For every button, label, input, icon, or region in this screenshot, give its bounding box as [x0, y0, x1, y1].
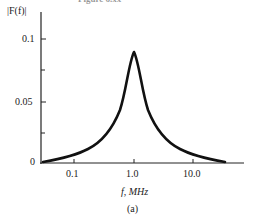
x-tick-label: 10.0	[183, 168, 201, 179]
x-tick-label: 1.0	[126, 168, 139, 179]
x-tick-label: 0.1	[66, 168, 79, 179]
y-axis-label: |F(f)|	[7, 5, 27, 16]
y-tick-label: 0.1	[22, 33, 35, 44]
response-curve	[43, 52, 225, 162]
y-tick-label: 0.05	[15, 96, 33, 107]
y-tick-label: 0	[30, 156, 35, 167]
x-axis-label: f, MHz	[121, 186, 148, 197]
figure-caption: (a)	[127, 203, 138, 214]
